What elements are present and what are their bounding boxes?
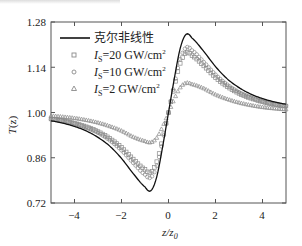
ytick-1.14: 1.14: [27, 62, 47, 74]
legend: 克尔非线性 IS=20 GW/cm2 IS=10 GW/cm2 IS=2 GW/…: [60, 30, 166, 98]
circle-marker-icon: [72, 70, 76, 74]
plot-series: [49, 34, 288, 191]
legend-label-10gw: IS=10 GW/cm2: [93, 65, 166, 81]
xtick-0: 0: [165, 209, 171, 221]
svg-text:T(z): T(z): [6, 116, 19, 135]
legend-label-2gw: IS=2 GW/cm2: [93, 82, 160, 98]
ytick-0.86: 0.86: [27, 152, 47, 164]
y-axis-title: T(z): [6, 116, 19, 135]
legend-label-20gw: IS=20 GW/cm2: [93, 48, 166, 64]
xtick--2: −2: [115, 209, 127, 221]
ytick-0.72: 0.72: [27, 197, 46, 209]
xtick-2: 2: [212, 209, 218, 221]
x-axis-title: z/z0: [161, 226, 178, 241]
ytick-1.00: 1.00: [27, 107, 47, 119]
square-marker-icon: [72, 53, 76, 57]
xtick-4: 4: [259, 209, 265, 221]
zscan-chart: 1.28 1.14 1.00 0.86 0.72 −4 −2 0 2 4 z/z…: [0, 0, 302, 246]
kerr-line: [51, 34, 286, 191]
triangle-marker-icon: [72, 86, 77, 91]
ytick-1.28: 1.28: [27, 16, 47, 28]
xtick--4: −4: [68, 209, 80, 221]
legend-label-kerr: 克尔非线性: [94, 30, 154, 45]
